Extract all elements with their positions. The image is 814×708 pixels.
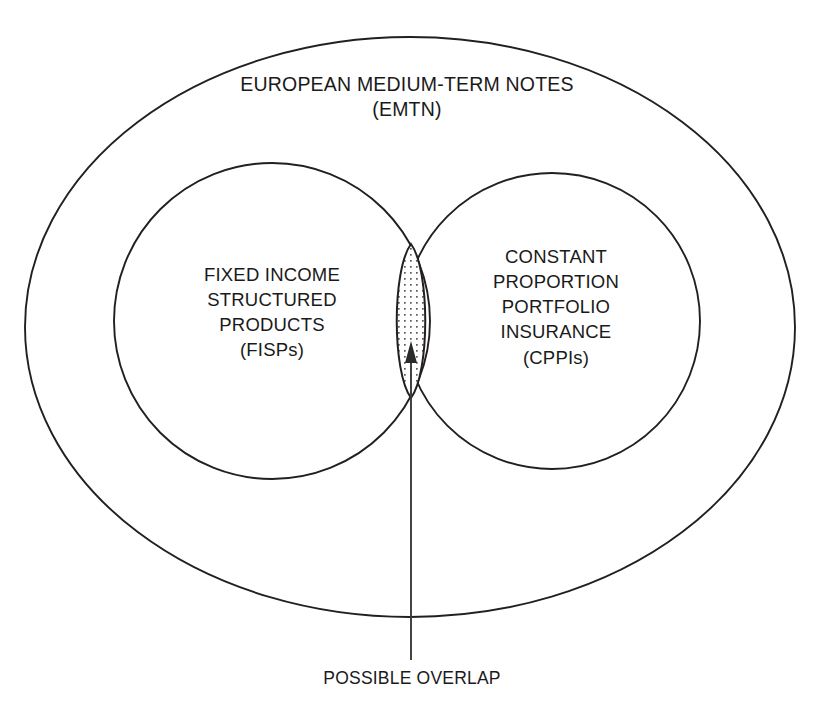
venn-diagram-figure: EUROPEAN MEDIUM-TERM NOTES (EMTN) FIXED …	[0, 0, 814, 708]
overlap-caption-label: POSSIBLE OVERLAP	[281, 667, 543, 690]
right-set-label-cppis: CONSTANT PROPORTION PORTFOLIO INSURANCE …	[452, 244, 660, 370]
outer-set-label-emtn: EUROPEAN MEDIUM-TERM NOTES (EMTN)	[187, 72, 627, 123]
left-set-label-fisps: FIXED INCOME STRUCTURED PRODUCTS (FISPs)	[168, 262, 376, 363]
